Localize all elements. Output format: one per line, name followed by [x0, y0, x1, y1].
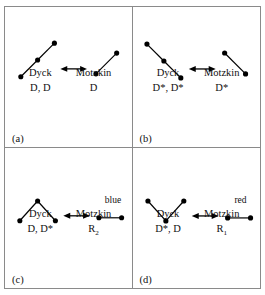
panel-d-left-name: Dyck: [143, 208, 194, 220]
panel-b-right-code: D*: [194, 82, 250, 94]
panel-d-labels: Dyck Motzkin D*, D R1: [133, 208, 261, 237]
panel-c-right-code-subscript: 2: [95, 229, 99, 237]
panel-c-right-name: Motzkin: [66, 208, 122, 220]
panel-b-left-code: D*, D*: [143, 82, 194, 94]
panel-b-tag: (b): [140, 133, 152, 144]
panel-c-tag: (c): [12, 274, 24, 285]
panel-b-labels: Dyck Motzkin D*, D* D*: [133, 67, 261, 94]
panel-c-left-code: D, D*: [15, 223, 66, 235]
panel-d-right-code: R1: [194, 223, 250, 237]
panel-c-labels: Dyck Motzkin D, D* R2: [5, 208, 132, 237]
panel-b-right-name: Motzkin: [194, 67, 250, 79]
panel-a-tag: (a): [12, 133, 24, 144]
panel-c-annotation: blue: [93, 196, 133, 206]
panel-a-right-name: Motzkin: [66, 67, 122, 79]
panel-d: red Dyck Motzkin D*, D R1 (d): [133, 148, 261, 289]
panel-b-left-name: Dyck: [143, 67, 194, 79]
panel-d-annotation: red: [221, 196, 261, 206]
panel-a-diagram: [5, 7, 132, 111]
panel-b: Dyck Motzkin D*, D* D* (b): [133, 7, 261, 148]
panel-a-left-code: D, D: [15, 82, 66, 94]
panel-c-right-code: R2: [66, 223, 122, 237]
panel-d-right-code-subscript: 1: [223, 229, 227, 237]
panel-d-tag: (d): [140, 274, 152, 285]
panel-a-right-code: D: [66, 82, 122, 94]
panel-d-right-name: Motzkin: [194, 208, 250, 220]
panel-a: Dyck Motzkin D, D D (a): [5, 7, 133, 148]
panel-grid: Dyck Motzkin D, D D (a): [4, 6, 261, 289]
figure-panel-grid: Dyck Motzkin D, D D (a): [0, 0, 265, 295]
panel-b-diagram: [133, 7, 261, 111]
panel-d-left-code: D*, D: [143, 223, 194, 235]
panel-a-labels: Dyck Motzkin D, D D: [5, 67, 132, 94]
panel-c: blue Dyck Motzkin D, D* R2 (c): [5, 148, 133, 289]
panel-c-left-name: Dyck: [15, 208, 66, 220]
panel-a-left-name: Dyck: [15, 67, 66, 79]
